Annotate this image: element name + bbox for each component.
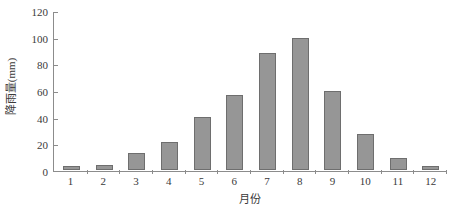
y-axis-tick-label: 0 (43, 167, 49, 178)
bar-slot (55, 12, 88, 170)
x-axis-tick-label: 1 (54, 176, 87, 187)
y-axis-tick-label: 120 (32, 7, 49, 18)
y-axis-title-label: 降雨量(mm) (7, 57, 18, 114)
bar[interactable] (194, 117, 211, 170)
x-axis-tickmark (381, 170, 382, 174)
bars-layer (55, 12, 447, 170)
x-axis-tickmark (152, 170, 153, 174)
y-axis-tick-label: 20 (37, 140, 48, 151)
bar[interactable] (390, 158, 407, 170)
x-axis-tick-label: 5 (185, 176, 218, 187)
x-axis-title: 月份 (53, 194, 447, 205)
x-axis-tick-label: 4 (152, 176, 185, 187)
x-axis-tickmark (348, 170, 349, 174)
bar-slot (186, 12, 219, 170)
x-axis-tickmark (87, 170, 88, 174)
x-axis-tick-label: 2 (87, 176, 120, 187)
rainfall-bar-chart: 降雨量(mm) 020406080100120 123456789101112 … (0, 0, 455, 218)
x-axis-tick-label: 7 (251, 176, 284, 187)
x-axis-tickmark (315, 170, 316, 174)
plot-area (53, 12, 447, 172)
bar-slot (414, 12, 447, 170)
x-axis-tick-label: 12 (414, 176, 447, 187)
bar[interactable] (161, 142, 178, 170)
bar-slot (382, 12, 415, 170)
bar-slot (153, 12, 186, 170)
x-axis-tickmark (185, 170, 186, 174)
bar-slot (88, 12, 121, 170)
bar-slot (316, 12, 349, 170)
x-axis-tick-label: 6 (218, 176, 251, 187)
bar[interactable] (259, 53, 276, 170)
x-axis-tickmark (413, 170, 414, 174)
bar[interactable] (324, 91, 341, 170)
x-axis-tickmark (446, 170, 447, 174)
y-axis-tick-labels: 020406080100120 (22, 12, 48, 172)
x-axis-tickmark (217, 170, 218, 174)
bar[interactable] (63, 166, 80, 170)
y-axis-tick-label: 60 (37, 87, 48, 98)
x-axis-tickmark (283, 170, 284, 174)
x-axis-tickmark (250, 170, 251, 174)
x-axis-tickmark (119, 170, 120, 174)
bar-slot (120, 12, 153, 170)
bar[interactable] (292, 38, 309, 170)
bar-slot (349, 12, 382, 170)
x-axis-tick-label: 9 (316, 176, 349, 187)
x-axis-tick-label: 11 (382, 176, 415, 187)
bar-slot (218, 12, 251, 170)
y-axis-title: 降雨量(mm) (0, 0, 24, 172)
x-axis-tick-labels: 123456789101112 (54, 176, 447, 187)
bar[interactable] (226, 95, 243, 170)
bar[interactable] (422, 166, 439, 170)
bar-slot (284, 12, 317, 170)
bar-slot (251, 12, 284, 170)
y-axis-tick-label: 100 (32, 33, 49, 44)
x-axis-tick-label: 3 (120, 176, 153, 187)
bar[interactable] (96, 165, 113, 170)
y-axis-tick-label: 80 (37, 60, 48, 71)
bar[interactable] (128, 153, 145, 170)
bar[interactable] (357, 134, 374, 170)
y-axis-tick-label: 40 (37, 113, 48, 124)
x-axis-tick-label: 8 (283, 176, 316, 187)
x-axis-tick-label: 10 (349, 176, 382, 187)
x-axis-title-label: 月份 (239, 193, 261, 205)
